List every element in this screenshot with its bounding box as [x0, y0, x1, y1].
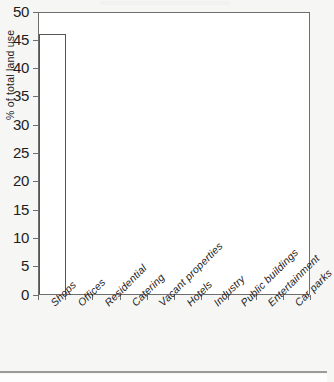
y-axis-tick-label: 35	[13, 87, 33, 104]
y-axis: 05101520253035404550	[0, 0, 38, 295]
y-axis-tick-label: 5	[21, 257, 33, 274]
y-axis-tick-label: 15	[13, 201, 33, 218]
y-axis-tick-label: 10	[13, 229, 33, 246]
page-divider	[0, 371, 327, 373]
y-axis-tick-label: 50	[13, 3, 33, 20]
y-axis-tick-label: 30	[13, 116, 33, 133]
y-axis-tick-label: 20	[13, 172, 33, 189]
page-margin	[0, 374, 327, 382]
bar	[39, 34, 66, 294]
scan-artifact	[100, 1, 230, 5]
y-axis-tick-label: 25	[13, 144, 33, 161]
x-axis-labels: ShopsOfficesResidentialCateringVacant pr…	[38, 300, 327, 378]
y-axis-tick-label: 40	[13, 59, 33, 76]
plot-area	[38, 12, 310, 295]
y-axis-tick-label: 0	[21, 286, 33, 303]
y-axis-tick-label: 45	[13, 31, 33, 48]
